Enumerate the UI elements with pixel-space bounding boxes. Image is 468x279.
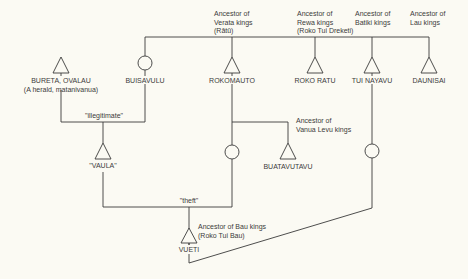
note-vueti: Ancestor of Bau kings (Roko Tui Bau) <box>198 223 266 240</box>
female-symbol-tuinayavu-daughter <box>365 144 379 158</box>
male-symbol-daunisai <box>421 57 437 73</box>
person-name-bureta: BURETA, OVALAU <box>31 76 91 85</box>
note-daunisai: Ancestor of Lau kings <box>410 10 445 27</box>
note-buatavutavu: Ancestor of Vanua Levu kings <box>296 117 351 134</box>
person-name-rokomauto: ROKOMAUTO <box>209 76 255 85</box>
female-symbol-rokomauto-daughter <box>225 145 239 159</box>
relation-label-theft: "theft" <box>180 196 199 205</box>
male-symbol-vueti <box>181 228 197 243</box>
person-name-rokoratu: ROKO RATU <box>294 76 335 85</box>
male-symbol-tuinayavu <box>364 57 380 73</box>
person-name-daunisai: DAUNISAI <box>412 76 445 85</box>
person-name-vueti: VUETI <box>178 245 201 254</box>
person-name-tuinayavu: TUI NAYAVU <box>352 76 392 85</box>
person-name-vaula: "VAULA" <box>89 161 116 170</box>
note-rokomauto: Ancestor of Verata kings (Rātū) <box>214 10 253 36</box>
note-rokoratu: Ancestor of Rewa kings (Roko Tui Dreketi… <box>297 10 353 36</box>
male-symbol-bureta <box>53 57 69 73</box>
note-tuinayavu: Ancestor of Batiki kings <box>355 10 390 27</box>
relation-label-illegitimate: "illegitimate" <box>85 111 123 120</box>
female-symbol-buisavulu <box>138 56 152 70</box>
person-name-buisavulu: BUISAVULU <box>125 76 164 85</box>
person-name-buatavutavu: BUATAVUTAVU <box>263 162 312 171</box>
person-sub-bureta: (A herald, matanivanua) <box>24 85 98 94</box>
male-symbol-rokoratu <box>307 57 323 73</box>
male-symbol-rokomauto <box>224 57 240 73</box>
male-symbol-vaula <box>95 143 111 159</box>
male-symbol-buatavutavu <box>280 143 296 159</box>
